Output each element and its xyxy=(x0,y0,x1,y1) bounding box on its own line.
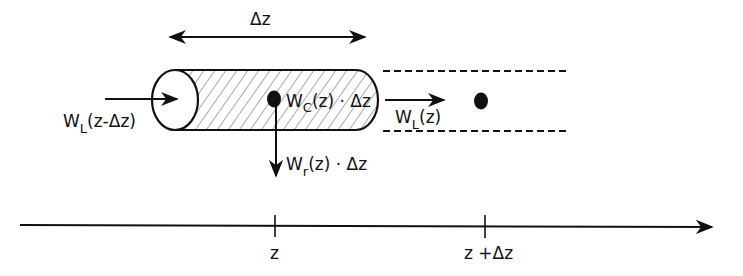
tick-label-z-plus-dz: z +Δz xyxy=(464,243,513,263)
outflow-flux: WL(z) xyxy=(385,100,444,132)
outflow-label: WL(z) xyxy=(395,107,441,132)
delta-z-dimension: Δz xyxy=(170,9,365,37)
downstream-dot-icon xyxy=(474,93,488,110)
axis-arrow-icon xyxy=(20,225,712,227)
z-axis: z z +Δz xyxy=(20,215,712,263)
tick-label-z: z xyxy=(270,243,279,263)
diagram-canvas: Δz WL(z-Δz) WC(z) · Δz Wr(z) · Δz WL(z) … xyxy=(0,0,743,276)
delta-z-label: Δz xyxy=(250,9,271,29)
reaction-label: Wr(z) · Δz xyxy=(286,154,367,179)
dot-icon xyxy=(267,91,281,108)
inflow-label: WL(z-Δz) xyxy=(63,111,136,136)
